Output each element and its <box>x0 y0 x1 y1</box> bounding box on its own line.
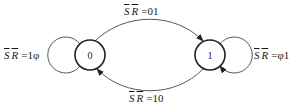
value-text: =φ1 <box>271 49 289 61</box>
value-text: =10 <box>146 92 163 104</box>
state-1-label: 1 <box>208 50 213 61</box>
transition-1-to-0 <box>97 69 203 91</box>
var-s-bar: S <box>4 49 10 61</box>
label-bottom-transition: SR=10 <box>129 92 163 104</box>
var-r-bar: R <box>137 92 144 104</box>
label-right-self-loop: SR=φ1 <box>254 49 289 61</box>
var-s-bar: S <box>129 92 135 104</box>
value-text: =01 <box>141 5 158 17</box>
var-r-bar: R <box>12 49 19 61</box>
var-s-bar: S <box>254 49 260 61</box>
state-0-label: 0 <box>88 50 93 61</box>
label-left-self-loop: SR=1φ <box>4 49 39 61</box>
state-0-node: 0 <box>75 40 105 70</box>
state-1-node: 1 <box>195 40 225 70</box>
transition-0-to-1 <box>95 19 203 41</box>
label-top-transition: SR=01 <box>124 5 158 17</box>
var-r-bar: R <box>262 49 269 61</box>
var-s-bar: S <box>124 5 130 17</box>
var-r-bar: R <box>132 5 139 17</box>
value-text: =1φ <box>21 49 39 61</box>
